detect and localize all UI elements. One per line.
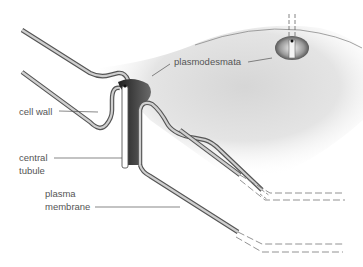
label-plasmodesmata: plasmodesmata xyxy=(174,56,241,68)
diagram-illustration xyxy=(0,0,363,267)
central-tubule xyxy=(122,84,128,168)
label-cell-wall: cell wall xyxy=(19,106,52,118)
leader-cell-wall xyxy=(59,111,98,112)
lower-membrane-band xyxy=(140,165,238,232)
cell-wall-lower xyxy=(22,72,120,128)
plasmodesmata-diagram: plasmodesmata cell wall central tubule p… xyxy=(0,0,363,267)
label-central-tubule-line1: central xyxy=(19,152,48,164)
label-central-tubule-line2: tubule xyxy=(19,165,45,177)
dashed-continuations xyxy=(236,175,345,252)
label-plasma-membrane-line2: membrane xyxy=(45,201,90,213)
label-plasma-membrane-line1: plasma xyxy=(45,188,76,200)
